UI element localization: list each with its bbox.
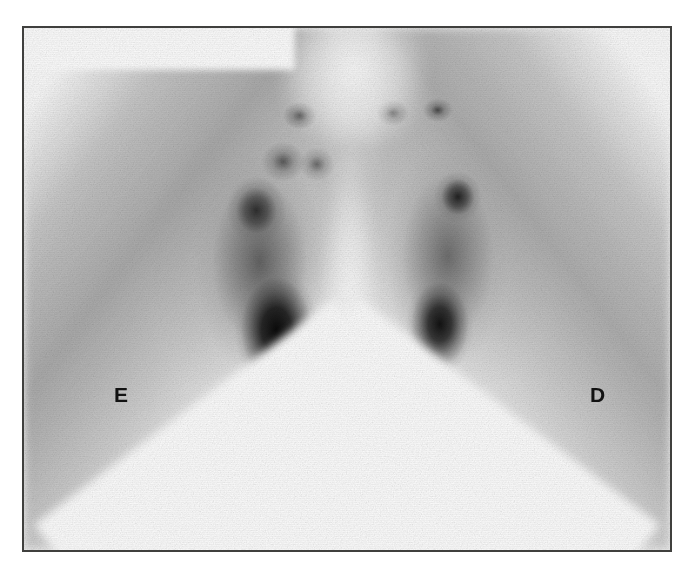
figure-page: E D — [0, 0, 694, 574]
orientation-marker-left: E — [114, 384, 128, 405]
caption-sliver — [24, 566, 444, 574]
orientation-marker-right: D — [590, 384, 605, 405]
superior-midline-notch — [282, 28, 424, 143]
scintigraphy-canvas: E D — [24, 28, 670, 550]
scintigraphy-image-frame: E D — [22, 26, 672, 552]
upper-left-blank-wedge — [24, 28, 295, 70]
